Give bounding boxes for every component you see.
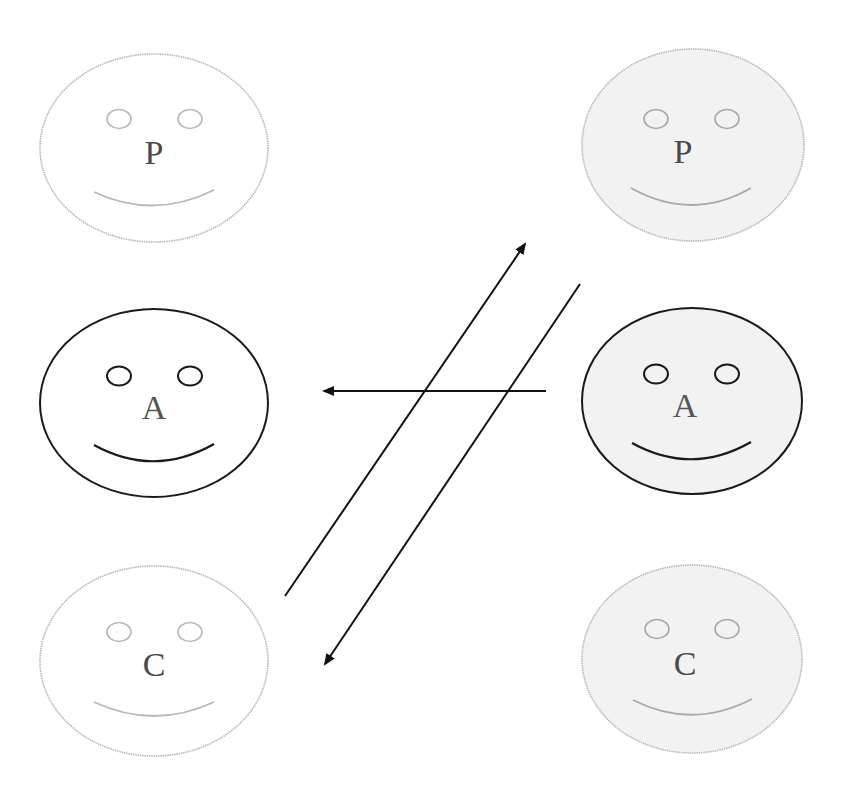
left-adult-face: A [40,309,268,497]
transaction-diagram: P A C P A C [0,0,850,798]
face-label-p: P [674,133,693,170]
right-child-face: C [582,565,802,753]
face-label-a: A [142,389,167,426]
right-parent-face: P [582,49,804,241]
face-label-a: A [673,387,698,424]
left-child-face: C [40,566,268,756]
right-adult-face: A [582,308,802,494]
face-label-c: C [674,645,697,682]
face-label-p: P [145,134,164,171]
left-parent-face: P [40,54,268,242]
arrow-parent-to-child [325,284,580,664]
face-label-c: C [143,646,166,683]
